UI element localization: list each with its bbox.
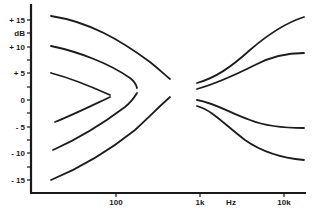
y-label-zero: 0 xyxy=(21,96,26,105)
y-label-plus5: + 5 xyxy=(14,69,26,78)
y-label-minus10: - 10 xyxy=(11,149,25,158)
x-label-1k: 1k xyxy=(196,198,205,207)
eq-response-chart: + 15 dB + 10 + 5 0 - 5 - 10 - 15 100 1k … xyxy=(0,0,314,210)
curve-bass-cut-min xyxy=(55,97,110,122)
x-label-10k: 10k xyxy=(277,198,291,207)
curve-treble-cut-max xyxy=(197,106,304,160)
curve-treble-boost-max xyxy=(197,17,304,83)
curve-bass-boost-min xyxy=(51,73,110,95)
curve-bass-boost-mid xyxy=(51,46,137,88)
curve-bass-cut-mid xyxy=(53,93,137,150)
y-label-plus15: + 15 xyxy=(9,16,25,25)
curve-bass-boost-max xyxy=(51,16,170,79)
y-unit-label: dB xyxy=(14,29,25,38)
y-label-plus10: + 10 xyxy=(9,43,25,52)
curve-treble-boost-min xyxy=(197,53,304,89)
x-label-100: 100 xyxy=(109,198,123,207)
curve-bass-cut-max xyxy=(51,97,170,180)
y-label-minus15: - 15 xyxy=(11,176,25,185)
y-label-minus5: - 5 xyxy=(16,123,26,132)
x-unit-label: Hz xyxy=(226,198,236,207)
